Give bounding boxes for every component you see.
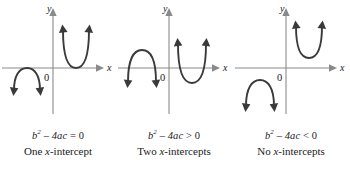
- x-axis-label: x: [339, 62, 345, 73]
- plot-two-intercepts: x y 0: [116, 2, 232, 120]
- equation-exponent: 2: [37, 128, 41, 136]
- equation-mid: – 4ac: [160, 130, 184, 141]
- origin-label: 0: [160, 72, 165, 83]
- curve-opens-down-arrow-left: [124, 79, 133, 88]
- plot-no-intercepts: x y 0: [233, 2, 349, 120]
- curve-opens-up-arrow-right: [84, 25, 93, 34]
- equation-mid: – 4ac: [277, 130, 301, 141]
- curve-opens-up-arrow-left: [59, 25, 68, 34]
- equation-relation: =: [70, 130, 76, 141]
- curve-opens-up-arrow-right: [317, 21, 326, 30]
- caption-prefix: One: [24, 145, 45, 157]
- curve-opens-down: [128, 50, 156, 82]
- caption-suffix: -intercept: [50, 145, 92, 157]
- x-axis-arrowhead: [329, 64, 337, 71]
- curve-opens-up-arrow-right: [202, 38, 211, 47]
- caption-suffix: -intercepts: [278, 145, 324, 157]
- origin-label: 0: [44, 72, 49, 83]
- caption-text-no-intercepts: No x-intercepts: [233, 145, 349, 158]
- y-axis-label: y: [162, 3, 168, 14]
- discriminant-figure: x y 0 b2 – 4ac = 0 One x-intercept: [0, 0, 350, 172]
- curve-opens-down: [246, 80, 274, 106]
- curve-opens-down-arrow-right: [152, 79, 161, 88]
- equation-relation: <: [303, 130, 309, 141]
- curve-opens-up-arrow-left: [292, 21, 301, 30]
- graph-svg-two-intercepts: x y 0: [116, 2, 232, 120]
- curve-opens-up: [63, 30, 89, 68]
- caption-equation-two-intercepts: b2 – 4ac > 0: [116, 128, 232, 142]
- curve-opens-down-arrow-right: [270, 103, 279, 112]
- curve-opens-up: [296, 26, 322, 58]
- curve-opens-up: [178, 44, 206, 83]
- curve-opens-down: [14, 68, 40, 90]
- caption-prefix: No: [257, 145, 273, 157]
- caption-suffix: -intercepts: [164, 145, 210, 157]
- plot-one-intercept: x y 0: [0, 2, 116, 120]
- equation-relation: >: [186, 130, 192, 141]
- x-axis-arrowhead: [212, 64, 220, 71]
- curve-opens-down-arrow-left: [10, 87, 19, 96]
- caption-text-one-intercept: One x-intercept: [0, 145, 116, 158]
- equation-mid: – 4ac: [44, 130, 68, 141]
- y-axis-label: y: [279, 3, 285, 14]
- graph-svg-one-intercept: x y 0: [0, 2, 116, 120]
- equation-rhs: 0: [195, 130, 200, 141]
- panel-two-intercepts: x y 0 b2 – 4ac > 0 Two x-intercepts: [116, 0, 232, 172]
- panel-one-intercept: x y 0 b2 – 4ac = 0 One x-intercept: [0, 0, 116, 172]
- curve-opens-up-arrow-left: [174, 38, 183, 47]
- equation-rhs: 0: [312, 130, 317, 141]
- equation-exponent: 2: [270, 128, 274, 136]
- x-axis-label: x: [222, 62, 228, 73]
- y-axis-label: y: [46, 3, 52, 14]
- equation-exponent: 2: [153, 128, 157, 136]
- x-axis-arrowhead: [96, 64, 104, 71]
- caption-prefix: Two: [137, 145, 159, 157]
- caption-text-two-intercepts: Two x-intercepts: [116, 145, 232, 158]
- caption-equation-no-intercepts: b2 – 4ac < 0: [233, 128, 349, 142]
- equation-rhs: 0: [79, 130, 84, 141]
- x-axis-label: x: [106, 62, 112, 73]
- curve-opens-down-arrow-right: [36, 87, 45, 96]
- caption-equation-one-intercept: b2 – 4ac = 0: [0, 128, 116, 142]
- curve-opens-down-arrow-left: [242, 103, 251, 112]
- origin-label: 0: [277, 72, 282, 83]
- panel-no-intercepts: x y 0 b2 – 4ac < 0 No x-intercepts: [233, 0, 349, 172]
- graph-svg-no-intercepts: x y 0: [233, 2, 349, 120]
